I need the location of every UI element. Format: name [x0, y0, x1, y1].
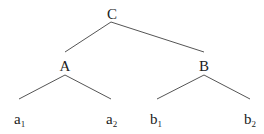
leaf-b2-sub: 2: [252, 119, 257, 129]
leaf-a2-sub: 2: [113, 119, 118, 129]
edge-b-b1: [157, 75, 204, 99]
leaf-b1-sub: 1: [158, 119, 163, 129]
edge-a-a1: [19, 75, 65, 99]
leaf-b1: b1: [150, 111, 162, 129]
leaf-a2: a2: [106, 111, 117, 129]
edge-c-b: [111, 22, 204, 52]
leaf-b1-base: b: [150, 111, 158, 127]
tree-diagram: C A B a1 a2 b1 b2: [0, 0, 264, 134]
edge-b-b2: [204, 75, 250, 99]
node-b: B: [199, 58, 209, 74]
leaf-b2: b2: [244, 111, 256, 129]
tree-svg: C A B a1 a2 b1 b2: [0, 0, 264, 134]
leaf-a1-sub: 1: [21, 119, 26, 129]
leaf-a1: a1: [14, 111, 25, 129]
node-a: A: [60, 58, 71, 74]
edge-c-a: [65, 22, 111, 52]
leaf-b2-base: b: [244, 111, 252, 127]
edge-a-a2: [65, 75, 111, 99]
node-c: C: [107, 6, 117, 22]
